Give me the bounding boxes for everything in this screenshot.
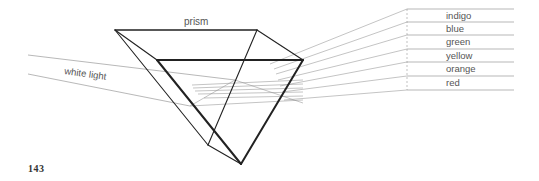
label-indigo: indigo (446, 10, 471, 21)
label-yellow: yellow (446, 50, 473, 61)
dispersed-rays (270, 9, 407, 100)
prism-label: prism (184, 16, 208, 27)
prism-dispersion-diagram: indigo blue green yellow orange red pris… (0, 0, 539, 181)
internal-rays (190, 80, 303, 106)
page-number: 143 (28, 163, 45, 174)
white-light-label: white light (63, 65, 108, 82)
white-light-beam (28, 55, 235, 106)
label-red: red (446, 77, 460, 88)
label-green: green (446, 36, 470, 47)
label-orange: orange (446, 63, 476, 74)
label-blue: blue (446, 23, 464, 34)
